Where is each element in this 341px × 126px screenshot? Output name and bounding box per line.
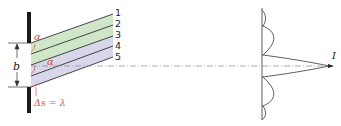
intensity-curve bbox=[262, 10, 329, 120]
angle-label-center: α bbox=[47, 56, 54, 67]
beam-label-4: 4 bbox=[115, 40, 121, 51]
intensity-arrow-icon bbox=[328, 64, 334, 68]
slit-wall-bottom bbox=[27, 87, 31, 113]
diffraction-diagram: b α α Δs = λ 1 2 3 4 5 I bbox=[0, 0, 341, 126]
slit-width-label: b bbox=[13, 60, 20, 73]
intensity-label: I bbox=[331, 50, 337, 61]
beam-label-2: 2 bbox=[115, 18, 121, 29]
angle-label-top: α bbox=[34, 31, 41, 42]
beam-label-5: 5 bbox=[115, 51, 121, 62]
beam-label-1: 1 bbox=[115, 7, 121, 18]
beam-label-3: 3 bbox=[115, 29, 121, 40]
slit-wall-top bbox=[27, 12, 31, 43]
path-difference-label: Δs = λ bbox=[33, 97, 66, 108]
